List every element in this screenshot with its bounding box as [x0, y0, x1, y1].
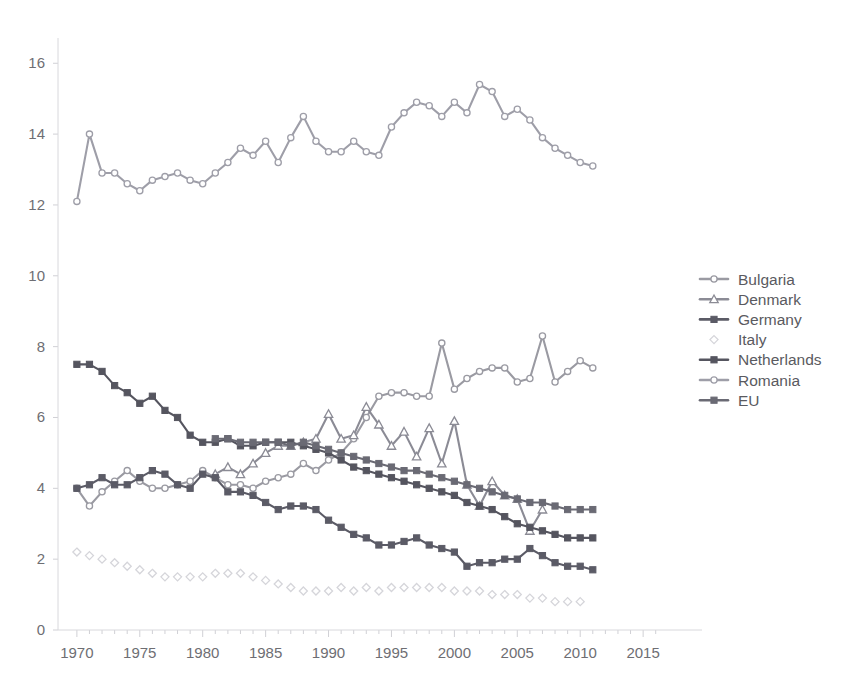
data-point: [313, 443, 319, 449]
y-tick-label: 0: [37, 621, 45, 638]
data-point: [565, 563, 571, 569]
data-point: [514, 556, 520, 562]
data-point: [577, 358, 583, 364]
y-tick-label: 8: [37, 338, 45, 355]
data-point: [375, 587, 383, 595]
data-point: [263, 138, 269, 144]
data-point: [137, 188, 143, 194]
data-point: [225, 159, 231, 165]
data-point: [414, 99, 420, 105]
data-point: [99, 368, 105, 374]
x-tick-label: 2015: [626, 644, 659, 661]
series-romania: [74, 81, 596, 204]
data-point: [565, 506, 571, 512]
data-point: [426, 393, 432, 399]
data-point: [225, 482, 231, 488]
x-axis-ticks: 1970197519801985199019952000200520102015: [60, 630, 660, 661]
data-point: [476, 485, 482, 491]
data-point: [502, 365, 508, 371]
data-point: [476, 560, 482, 566]
data-point: [86, 361, 92, 367]
data-point: [124, 181, 130, 187]
data-point: [451, 99, 457, 105]
data-point: [527, 524, 533, 530]
legend-item-denmark[interactable]: Denmark: [700, 291, 801, 308]
x-tick-label: 1970: [60, 644, 93, 661]
data-point: [489, 365, 495, 371]
data-point: [275, 159, 281, 165]
data-point: [539, 333, 545, 339]
y-tick-label: 4: [37, 479, 45, 496]
data-point: [376, 542, 382, 548]
legend-label: Germany: [738, 311, 802, 328]
data-point: [464, 375, 470, 381]
axis-lines: [58, 38, 702, 630]
data-point: [514, 106, 520, 112]
data-point: [98, 555, 106, 563]
legend-item-eu[interactable]: EU: [700, 392, 760, 409]
data-point: [513, 591, 521, 599]
data-point: [312, 435, 320, 443]
data-point: [451, 492, 457, 498]
data-point: [299, 587, 307, 595]
data-point: [112, 382, 118, 388]
data-point: [162, 407, 168, 413]
data-point: [212, 170, 218, 176]
data-point: [300, 113, 306, 119]
data-point: [552, 531, 558, 537]
data-point: [73, 548, 81, 556]
data-point: [288, 503, 294, 509]
data-point: [224, 569, 232, 577]
data-point: [501, 591, 509, 599]
data-point: [551, 598, 559, 606]
data-point: [476, 503, 482, 509]
data-point: [312, 587, 320, 595]
legend-item-romania[interactable]: Romania: [700, 372, 800, 389]
data-point: [414, 468, 420, 474]
x-tick-label: 1975: [123, 644, 156, 661]
data-point: [237, 145, 243, 151]
data-point: [376, 460, 382, 466]
data-point: [711, 397, 717, 403]
data-point: [325, 517, 331, 523]
data-point: [149, 177, 155, 183]
data-point: [376, 152, 382, 158]
data-point: [514, 379, 520, 385]
data-point: [577, 535, 583, 541]
data-point: [237, 482, 243, 488]
data-point: [162, 471, 168, 477]
data-point: [186, 573, 194, 581]
data-point: [74, 485, 80, 491]
data-point: [174, 414, 180, 420]
data-point: [137, 475, 143, 481]
data-point: [590, 365, 596, 371]
data-point: [711, 276, 717, 282]
data-point: [187, 485, 193, 491]
data-point: [99, 475, 105, 481]
data-point: [401, 468, 407, 474]
data-point: [502, 492, 508, 498]
data-point: [413, 583, 421, 591]
legend-item-netherlands[interactable]: Netherlands: [700, 351, 822, 368]
data-point: [464, 499, 470, 505]
data-point: [711, 357, 717, 363]
data-point: [539, 553, 545, 559]
data-point: [488, 591, 496, 599]
data-point: [489, 489, 495, 495]
legend-item-germany[interactable]: Germany: [700, 311, 802, 328]
data-point: [211, 569, 219, 577]
data-point: [576, 598, 584, 606]
legend-item-bulgaria[interactable]: Bulgaria: [700, 271, 795, 288]
data-point: [161, 573, 169, 581]
data-point: [489, 560, 495, 566]
data-point: [351, 138, 357, 144]
data-point: [388, 390, 394, 396]
data-point: [464, 482, 470, 488]
data-point: [174, 170, 180, 176]
data-point: [565, 152, 571, 158]
data-point: [539, 135, 545, 141]
data-point: [338, 457, 344, 463]
legend-label: Bulgaria: [738, 271, 795, 288]
data-point: [263, 478, 269, 484]
legend-item-italy[interactable]: Italy: [710, 331, 767, 348]
